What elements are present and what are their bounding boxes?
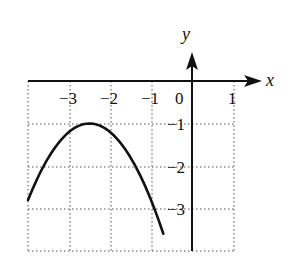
parabola-curve <box>28 124 163 234</box>
y-tick-label: −1 <box>167 115 185 134</box>
x-tick-label: −3 <box>59 89 77 108</box>
y-tick-label: −3 <box>167 200 185 219</box>
x-tick-label: −2 <box>100 89 118 108</box>
parabola-graph: x y −3 −2 −1 0 1 −1 −2 −3 <box>0 0 290 269</box>
x-axis: x <box>28 70 274 90</box>
y-tick-label: −2 <box>167 158 185 177</box>
y-tick-labels: −1 −2 −3 <box>167 115 185 219</box>
x-tick-label: −1 <box>141 89 159 108</box>
origin-label: 0 <box>175 89 184 108</box>
y-axis-label: y <box>180 24 190 44</box>
x-tick-labels: −3 −2 −1 0 1 <box>59 89 237 108</box>
x-tick-label: 1 <box>228 89 237 108</box>
x-axis-label: x <box>265 70 274 90</box>
